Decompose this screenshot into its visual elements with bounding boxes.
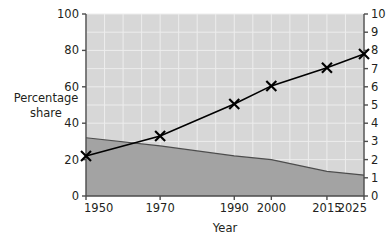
y2-tick-label: 9 [371, 25, 378, 39]
x-tick-label: 2025 [338, 201, 367, 215]
y-tick-label: 100 [57, 7, 79, 21]
y2-tick-label: 2 [371, 153, 378, 167]
x-tick-label: 1990 [220, 201, 249, 215]
y2-tick-label: 3 [371, 134, 378, 148]
y-tick-label: 0 [72, 189, 79, 203]
y-axis-title-line2: share [30, 106, 62, 120]
y2-tick-label: 0 [371, 189, 378, 203]
y-tick-label: 20 [64, 153, 79, 167]
y-tick-label: 80 [64, 43, 79, 57]
y-tick-label: 40 [64, 116, 79, 130]
y2-tick-label: 1 [371, 171, 378, 185]
chart-container: 020406080100 012345678910 19501970199020… [0, 0, 390, 236]
y2-tick-label: 4 [371, 116, 378, 130]
x-tick-label: 1970 [145, 201, 174, 215]
y2-tick-label: 8 [371, 43, 378, 57]
x-axis-title: Year [212, 221, 238, 235]
x-tick-label: 1950 [84, 201, 113, 215]
y2-tick-label: 7 [371, 62, 378, 76]
y2-tick-label: 5 [371, 98, 378, 112]
y-axis-title-line1: Percentage [14, 91, 79, 105]
x-tick-label: 2000 [257, 201, 286, 215]
y2-tick-label: 6 [371, 80, 378, 94]
dual-axis-chart: 020406080100 012345678910 19501970199020… [0, 0, 390, 236]
y2-tick-label: 10 [371, 7, 386, 21]
